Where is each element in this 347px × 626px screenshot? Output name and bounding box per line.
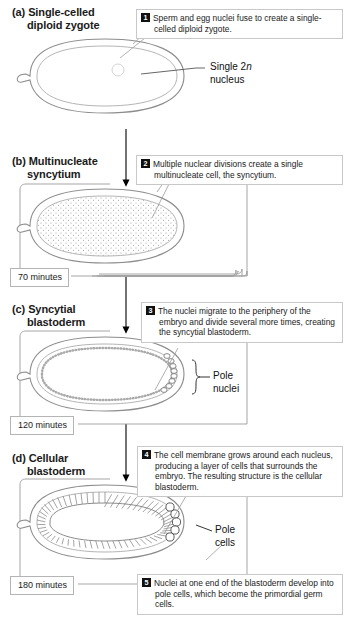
label-single-2n-line2: nucleus [210,74,244,85]
label-pole-cells-line1: Pole [215,524,235,535]
time-label-180-minutes: 180 minutes [10,576,74,595]
label-single-2n-line1: Single 2 [210,61,246,72]
panel-label-a: (a) [12,6,25,18]
panel-title-a-line1: Single-celled [28,6,95,18]
time-value-d: 180 minutes [18,580,67,590]
callout-step-1: 1Sperm and egg nuclei fuse to create a s… [136,9,343,39]
label-single-2n-italic: n [246,61,252,72]
embryo-figure-b[interactable] [14,186,189,278]
panel-title-c-line1: Syncytial [28,303,75,315]
label-pole-cells: Pole cells [215,524,235,549]
figure-canvas: (a) Single-celled diploid zygote (b) Mul… [0,0,347,626]
panel-title-c-line2: blastoderm [12,316,85,329]
callout-step-2: 2Multiple nuclear divisions create a sin… [136,155,343,185]
label-single-2n-nucleus: Single 2n nucleus [210,61,252,86]
label-pole-cells-line2: cells [215,537,235,548]
step-number-badge-3: 3 [146,306,155,315]
callout-text-2: Multiple nuclear divisions create a sing… [153,159,303,180]
panel-heading-d: (d) Cellular blastoderm [12,452,85,478]
panel-title-d-line2: blastoderm [12,465,85,478]
panel-title-a-line2: diploid zygote [12,19,100,32]
embryo-figure-d[interactable] [14,482,189,574]
label-pole-nuclei-line2: nuclei [213,383,239,394]
panel-label-d: (d) [12,452,26,464]
step-number-badge-1: 1 [141,13,150,22]
step-number-badge-2: 2 [141,159,150,168]
callout-text-3: The nuclei migrate to the periphery of t… [158,306,335,337]
step-number-badge-4: 4 [142,450,151,459]
label-pole-nuclei: Pole nuclei [213,370,239,395]
panel-title-b-line1: Multinucleate [29,155,98,167]
panel-title-d-line1: Cellular [29,452,69,464]
embryo-figure-a[interactable] [14,36,189,128]
panel-heading-a: (a) Single-celled diploid zygote [12,6,100,32]
callout-step-5: 5Nuclei at one end of the blastoderm dev… [137,574,343,615]
step-number-badge-5: 5 [142,578,151,587]
panel-heading-c: (c) Syncytial blastoderm [12,303,85,329]
panel-label-c: (c) [12,303,25,315]
panel-heading-b: (b) Multinucleate syncytium [12,155,98,181]
callout-text-5: Nuclei at one end of the blastoderm deve… [154,578,334,609]
leader-pole-cells [196,525,212,531]
panel-label-b: (b) [12,155,26,167]
embryo-figure-c[interactable] [14,334,189,426]
panel-title-b-line2: syncytium [12,168,98,181]
callout-text-1: Sperm and egg nuclei fuse to create a si… [153,13,322,34]
brace-pole-nuclei [192,360,200,394]
label-pole-nuclei-line1: Pole [213,370,233,381]
